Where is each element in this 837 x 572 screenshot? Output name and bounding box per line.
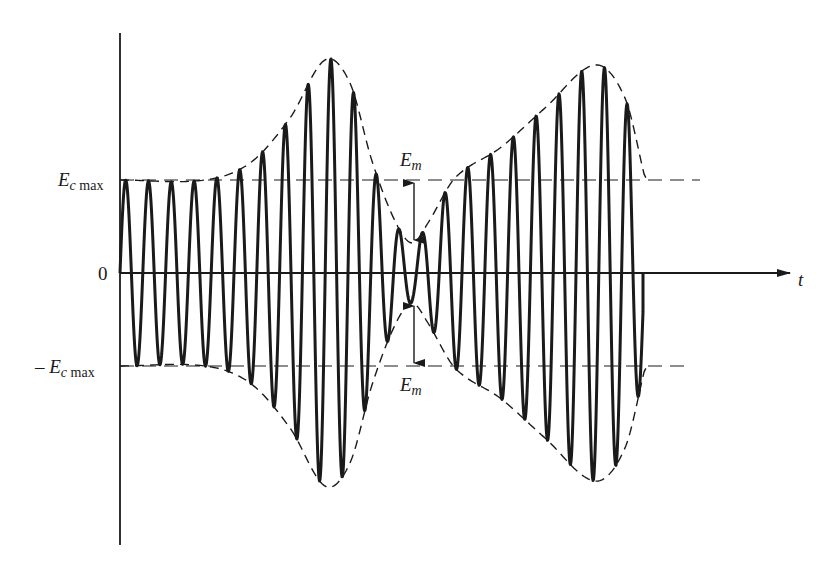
time-axis-label: t	[798, 270, 803, 289]
zero-label: 0	[98, 264, 108, 283]
ec-max-sub-max: max	[76, 178, 104, 193]
em-lower-sub: m	[412, 383, 422, 398]
neg-ec-max-sub-max: max	[67, 365, 95, 380]
em-lower-symbol: E	[400, 374, 412, 395]
upper-envelope	[120, 59, 648, 243]
ec-max-symbol: E	[58, 169, 70, 190]
am-waveform-diagram	[0, 0, 837, 572]
neg-ec-max-symbol: E	[49, 356, 61, 377]
modulated-carrier-wave	[120, 59, 643, 481]
ec-max-label: Ec max	[58, 170, 103, 193]
em-upper-symbol: E	[400, 149, 412, 170]
neg-sign: –	[35, 356, 49, 377]
em-lower-label: Em	[400, 375, 422, 398]
em-upper-sub: m	[412, 158, 422, 173]
time-symbol: t	[798, 269, 803, 290]
neg-ec-max-label: – Ec max	[35, 357, 95, 380]
em-upper-label: Em	[400, 150, 422, 173]
